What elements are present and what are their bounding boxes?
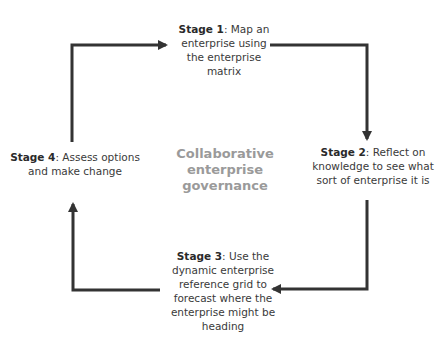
arrow-stage3-to-stage4 bbox=[73, 204, 160, 290]
stage-1-title: Stage 1 bbox=[179, 23, 224, 35]
arrow-stage1-to-stage2 bbox=[270, 45, 367, 139]
stage-4-box: Stage 4: Assess options and make change bbox=[10, 150, 140, 178]
arrow-stage2-to-stage3 bbox=[273, 200, 367, 289]
stage-4-title: Stage 4 bbox=[10, 151, 55, 163]
stage-3-title: Stage 3 bbox=[177, 250, 222, 262]
stage-1-box: Stage 1: Map an enterprise using the ent… bbox=[172, 22, 276, 78]
stage-2-box: Stage 2: Reflect on knowledge to see wha… bbox=[303, 145, 442, 187]
arrow-stage4-to-stage1 bbox=[72, 45, 166, 142]
stage-2-title: Stage 2 bbox=[321, 146, 366, 158]
center-label: Collaborative enterprise governance bbox=[175, 146, 275, 194]
stage-3-box: Stage 3: Use the dynamic enterprise refe… bbox=[163, 249, 283, 333]
